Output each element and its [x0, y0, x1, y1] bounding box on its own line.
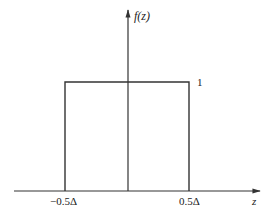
level-label: 1 [197, 76, 203, 88]
tick-left-label: −0.5Δ [50, 195, 77, 207]
y-axis-label: f(z) [134, 9, 150, 23]
x-axis-label: z [251, 195, 257, 207]
rect-pulse [65, 82, 189, 191]
rect-function-diagram: f(z) z 1 −0.5Δ 0.5Δ [0, 0, 271, 214]
tick-right-label: 0.5Δ [179, 195, 200, 207]
